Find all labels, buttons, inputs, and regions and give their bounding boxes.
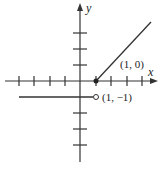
y-axis-label: y [85, 1, 92, 15]
point-label-closed: (1, 0) [120, 58, 144, 71]
open-point [94, 95, 99, 100]
closed-point [94, 79, 99, 84]
point-label-open: (1, −1) [102, 91, 132, 104]
piecewise-graph: y x (1, 0) (1, −1) [0, 0, 161, 172]
x-axis [5, 76, 158, 86]
y-axis [73, 3, 87, 162]
y-axis-arrow-icon [77, 3, 83, 11]
diagonal-ray [96, 22, 151, 81]
x-axis-label: x [147, 65, 154, 79]
